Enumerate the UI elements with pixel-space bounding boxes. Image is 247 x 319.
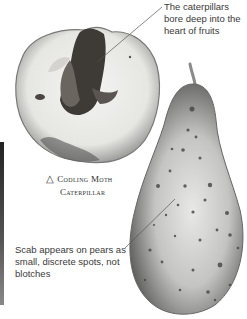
caterpillar-caption: The caterpillars bore deep into the hear… — [164, 1, 247, 37]
codling-moth-label: △Codling Moth Caterpillar — [46, 172, 136, 199]
triangle-icon: △ — [46, 173, 54, 184]
scab-caption: Scab appears on pears as small, discrete… — [15, 244, 135, 280]
label-line-2: Caterpillar — [46, 186, 136, 199]
scab-leader-line — [125, 199, 175, 248]
label-line-1: Codling Moth — [57, 174, 112, 184]
caterpillar-leader-line — [97, 7, 162, 62]
